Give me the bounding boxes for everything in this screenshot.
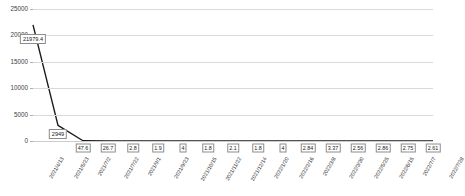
data-point-label: 26.7 — [101, 143, 116, 152]
x-axis-tick-label: 2021/9/1 — [146, 156, 162, 177]
x-axis-tick-label: 2022/2/16 — [298, 156, 315, 179]
data-point-label: 2.1 — [227, 143, 239, 152]
data-point-label: 3.37 — [326, 143, 341, 152]
x-axis-tick-label: 2022/6/15 — [398, 156, 415, 179]
data-point-label: 2.8 — [127, 143, 139, 152]
x-axis-tick-label: 2021/4/13 — [48, 156, 65, 179]
data-point-label: 4 — [280, 143, 287, 152]
x-axis-tick-label: 2022/7/7 — [421, 156, 437, 177]
data-point-label: 2.84 — [301, 143, 316, 152]
x-axis-tick-label: 2021/5/23 — [73, 156, 90, 179]
data-point-label: 2.86 — [376, 143, 391, 152]
x-axis-tick-label: 2021/7/22 — [123, 156, 140, 179]
data-point-label: 2.75 — [401, 143, 416, 152]
x-axis-tick-label: 2021/12/14 — [249, 156, 267, 182]
data-point-label: 1.8 — [202, 143, 214, 152]
data-point-label: 1.8 — [252, 143, 264, 152]
data-point-label: 1.9 — [152, 143, 164, 152]
x-axis-tick-label: 2021/9/23 — [173, 156, 190, 179]
x-axis-tick-label: 2021/7/2 — [96, 156, 112, 177]
data-point-label: 21979.4 — [20, 34, 46, 44]
x-axis-tick-label: 2022/1/20 — [273, 156, 290, 179]
data-point-label: 2.56 — [351, 143, 366, 152]
data-point-label: 47.6 — [76, 143, 91, 152]
x-axis-tick-label: 2022/3/8 — [321, 156, 337, 177]
data-point-label: 4 — [180, 143, 187, 152]
x-axis-tick-label: 2022/3/30 — [348, 156, 365, 179]
data-point-label: 2949 — [49, 129, 67, 139]
x-axis-tick-label: 2021/10/15 — [199, 156, 217, 182]
x-axis-tick-label: 2022/7/28 — [448, 156, 465, 179]
x-axis-tick-label: 2022/5/25 — [373, 156, 390, 179]
data-point-label: 2.61 — [426, 143, 441, 152]
x-axis-tick-label: 2021/11/22 — [224, 156, 242, 182]
